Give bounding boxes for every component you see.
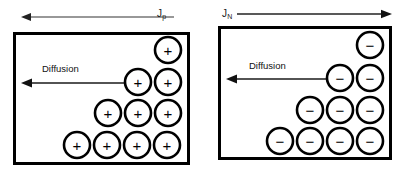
jp-arrow-head-left <box>21 13 31 21</box>
jp-label-subscript: p <box>162 13 166 20</box>
electron-diffusion-panel: − − − − − <box>203 0 407 175</box>
svg-text:−: − <box>336 133 345 150</box>
plus-circle-icon: + <box>125 100 151 126</box>
minus-circle-icon: − <box>357 32 383 58</box>
jp-flux-arrow <box>21 13 174 21</box>
plus-circle-icon: + <box>124 132 150 158</box>
jp-flux-label: Jp <box>157 9 166 20</box>
svg-text:−: − <box>366 102 375 119</box>
minus-circle-icon: − <box>327 128 353 154</box>
svg-text:−: − <box>336 70 345 87</box>
plus-circle-icon: + <box>155 69 181 95</box>
svg-text:−: − <box>366 70 375 87</box>
minus-circle-icon: − <box>267 128 293 154</box>
minus-circle-icon: − <box>327 65 353 91</box>
plus-circle-icon: + <box>94 132 120 158</box>
minus-circle-icon: − <box>357 97 383 123</box>
svg-text:−: − <box>306 102 315 119</box>
jn-flux-arrow <box>237 10 392 18</box>
hole-panel-graphics: + + + + + <box>0 0 203 175</box>
plus-circle-icon: + <box>64 132 90 158</box>
svg-text:+: + <box>164 74 173 91</box>
electron-panel-graphics: − − − − − <box>203 0 407 175</box>
svg-text:−: − <box>336 102 345 119</box>
minus-circle-icon: − <box>357 128 383 154</box>
svg-text:−: − <box>366 37 375 54</box>
plus-circle-icon: + <box>95 100 121 126</box>
plus-circle-icon: + <box>155 100 181 126</box>
svg-text:+: + <box>73 137 82 154</box>
svg-text:−: − <box>366 133 375 150</box>
svg-text:+: + <box>164 42 173 59</box>
plus-circle-icon: + <box>154 132 180 158</box>
minus-circle-icon: − <box>297 128 323 154</box>
svg-text:+: + <box>103 137 112 154</box>
svg-text:+: + <box>164 105 173 122</box>
carrier-diffusion-diagram: + + + + + <box>0 0 407 175</box>
hole-diffusion-panel: + + + + + <box>0 0 203 175</box>
svg-text:+: + <box>134 105 143 122</box>
hole-diffusion-label: Diffusion <box>42 64 79 74</box>
svg-text:+: + <box>104 105 113 122</box>
minus-circle-icon: − <box>327 97 353 123</box>
plus-circle-icon: + <box>125 69 151 95</box>
minus-circle-icon: − <box>297 97 323 123</box>
svg-text:−: − <box>276 133 285 150</box>
svg-text:+: + <box>133 137 142 154</box>
svg-text:−: − <box>306 133 315 150</box>
plus-circle-icon: + <box>155 37 181 63</box>
svg-text:+: + <box>163 137 172 154</box>
jn-label-subscript: N <box>227 13 232 20</box>
svg-text:+: + <box>134 74 143 91</box>
jn-flux-label: JN <box>222 9 232 20</box>
minus-circle-icon: − <box>357 65 383 91</box>
electron-diffusion-label: Diffusion <box>249 61 286 71</box>
jn-arrow-head-right <box>381 10 392 18</box>
